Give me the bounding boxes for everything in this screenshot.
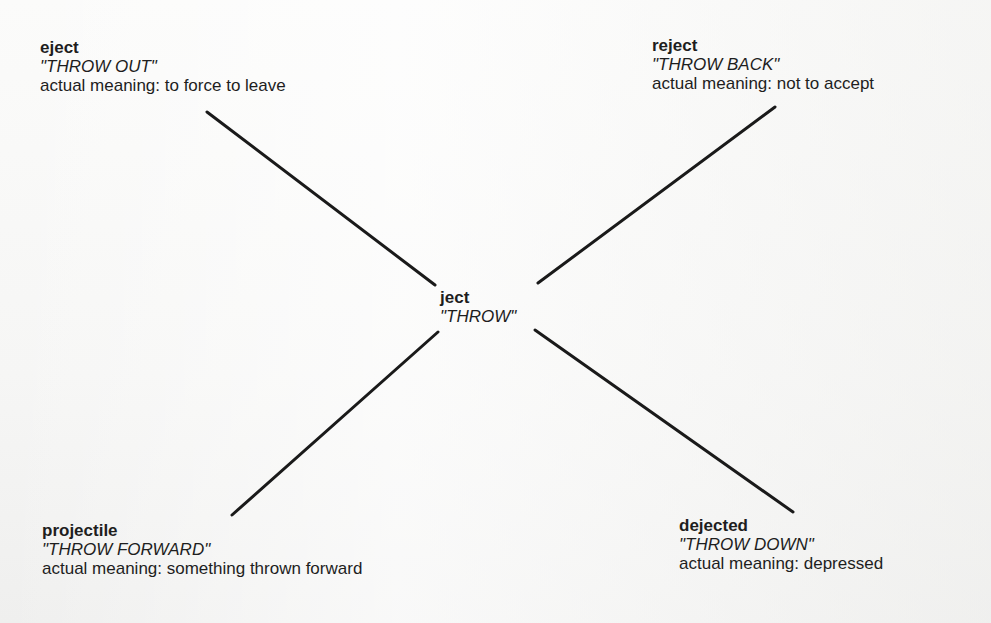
node-eject: eject "THROW OUT" actual meaning: to for…: [40, 38, 286, 95]
node-meaning: actual meaning: to force to leave: [40, 76, 286, 95]
edge-ject-eject: [207, 112, 435, 285]
node-word: reject: [652, 36, 874, 55]
node-projectile: projectile "THROW FORWARD" actual meanin…: [42, 521, 362, 578]
edge-ject-projectile: [232, 332, 438, 515]
node-dejected: dejected "THROW DOWN" actual meaning: de…: [679, 516, 883, 573]
node-literal: "THROW FORWARD": [42, 540, 362, 559]
node-word: projectile: [42, 521, 362, 540]
node-word: dejected: [679, 516, 883, 535]
edge-ject-dejected: [535, 330, 793, 512]
node-literal: "THROW BACK": [652, 55, 874, 74]
node-word: eject: [40, 38, 286, 57]
node-center-ject: ject "THROW": [440, 288, 516, 326]
node-literal: "THROW OUT": [40, 57, 286, 76]
node-meaning: actual meaning: not to accept: [652, 74, 874, 93]
node-meaning: actual meaning: something thrown forward: [42, 559, 362, 578]
center-word: ject: [440, 288, 516, 307]
node-literal: "THROW DOWN": [679, 535, 883, 554]
node-meaning: actual meaning: depressed: [679, 554, 883, 573]
node-reject: reject "THROW BACK" actual meaning: not …: [652, 36, 874, 93]
center-literal: "THROW": [440, 307, 516, 326]
edge-ject-reject: [538, 107, 775, 283]
